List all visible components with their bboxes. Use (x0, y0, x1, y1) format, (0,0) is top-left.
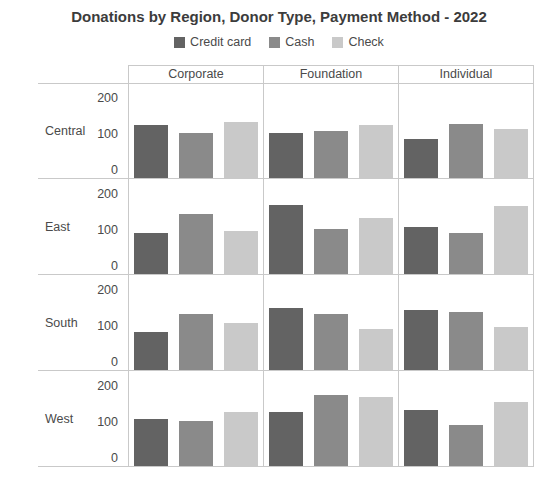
bar-east-foundation-check (359, 218, 393, 274)
bar-east-foundation-credit-card (269, 205, 303, 274)
bar-east-individual-credit-card (404, 227, 438, 274)
bar-central-individual-check (494, 129, 528, 178)
bar-south-foundation-check (359, 329, 393, 370)
y-tick-label-0: 0 (111, 259, 118, 273)
y-tick-label-200: 200 (97, 283, 118, 297)
bar-west-individual-credit-card (404, 410, 438, 466)
bar-central-foundation-credit-card (269, 133, 303, 178)
facet-cell-south-corporate (128, 275, 263, 371)
row-label-cell-central: Central0100200 (38, 83, 128, 179)
y-tick-label-100: 100 (97, 223, 118, 237)
column-header-individual: Individual (398, 65, 534, 84)
bar-central-foundation-check (359, 125, 393, 178)
y-tick-label-200: 200 (97, 187, 118, 201)
bar-central-foundation-cash (314, 131, 348, 178)
y-tick-label-0: 0 (111, 355, 118, 369)
y-tick-label-200: 200 (97, 91, 118, 105)
legend: Credit cardCashCheck (0, 35, 558, 49)
facet-cell-west-individual (398, 371, 534, 467)
bar-west-individual-check (494, 402, 528, 466)
bar-south-individual-check (494, 327, 528, 370)
bar-central-corporate-credit-card (134, 125, 168, 178)
legend-label-credit-card: Credit card (190, 35, 251, 49)
facet-cell-west-foundation (263, 371, 398, 467)
legend-swatch-check (332, 37, 343, 48)
bar-south-individual-cash (449, 312, 483, 370)
bar-central-corporate-cash (179, 133, 213, 178)
bar-west-corporate-cash (179, 421, 213, 466)
facet-grid: CorporateFoundationIndividualCentral0100… (38, 65, 535, 467)
legend-label-cash: Cash (285, 35, 314, 49)
facet-cell-south-individual (398, 275, 534, 371)
row-label-cell-east: East0100200 (38, 179, 128, 275)
chart-title: Donations by Region, Donor Type, Payment… (0, 0, 558, 25)
y-tick-label-0: 0 (111, 163, 118, 177)
bar-south-corporate-check (224, 323, 258, 370)
row-label-cell-west: West0100200 (38, 371, 128, 467)
row-label-east: East (45, 220, 70, 234)
bar-west-corporate-credit-card (134, 419, 168, 466)
bar-south-individual-credit-card (404, 310, 438, 370)
bar-east-foundation-cash (314, 229, 348, 274)
column-header-foundation: Foundation (263, 65, 398, 84)
column-header-row: CorporateFoundationIndividual (38, 65, 535, 83)
row-label-central: Central (45, 124, 85, 138)
facet-row-south: South0100200 (38, 275, 535, 371)
bar-central-corporate-check (224, 122, 258, 178)
bar-east-corporate-cash (179, 214, 213, 274)
y-tick-label-0: 0 (111, 451, 118, 465)
bar-east-corporate-check (224, 231, 258, 274)
bar-west-foundation-check (359, 397, 393, 466)
row-label-west: West (45, 412, 73, 426)
bar-west-foundation-cash (314, 395, 348, 466)
row-label-cell-south: South0100200 (38, 275, 128, 371)
grid-corner (38, 65, 128, 84)
facet-cell-west-corporate (128, 371, 263, 467)
facet-cell-central-foundation (263, 83, 398, 179)
bar-south-corporate-cash (179, 314, 213, 370)
legend-swatch-credit-card (174, 37, 185, 48)
bar-central-individual-cash (449, 124, 483, 178)
facet-cell-central-corporate (128, 83, 263, 179)
facet-row-central: Central0100200 (38, 83, 535, 179)
bar-south-foundation-cash (314, 314, 348, 370)
facet-cell-east-foundation (263, 179, 398, 275)
legend-label-check: Check (348, 35, 383, 49)
bar-west-foundation-credit-card (269, 412, 303, 466)
legend-item-check: Check (332, 35, 383, 49)
bar-east-individual-check (494, 206, 528, 274)
facet-cell-east-individual (398, 179, 534, 275)
bar-central-individual-credit-card (404, 139, 438, 178)
legend-swatch-cash (269, 37, 280, 48)
facet-cell-east-corporate (128, 179, 263, 275)
facet-row-east: East0100200 (38, 179, 535, 275)
facet-cell-central-individual (398, 83, 534, 179)
bar-south-corporate-credit-card (134, 332, 168, 370)
y-tick-label-200: 200 (97, 379, 118, 393)
y-tick-label-100: 100 (97, 415, 118, 429)
facet-cell-south-foundation (263, 275, 398, 371)
y-tick-label-100: 100 (97, 319, 118, 333)
row-label-south: South (45, 316, 78, 330)
bar-east-corporate-credit-card (134, 233, 168, 274)
legend-item-credit-card: Credit card (174, 35, 251, 49)
legend-item-cash: Cash (269, 35, 314, 49)
bar-west-individual-cash (449, 425, 483, 466)
bar-east-individual-cash (449, 233, 483, 274)
column-header-corporate: Corporate (128, 65, 263, 84)
bar-south-foundation-credit-card (269, 308, 303, 370)
bar-west-corporate-check (224, 412, 258, 466)
y-tick-label-100: 100 (97, 127, 118, 141)
facet-row-west: West0100200 (38, 371, 535, 467)
